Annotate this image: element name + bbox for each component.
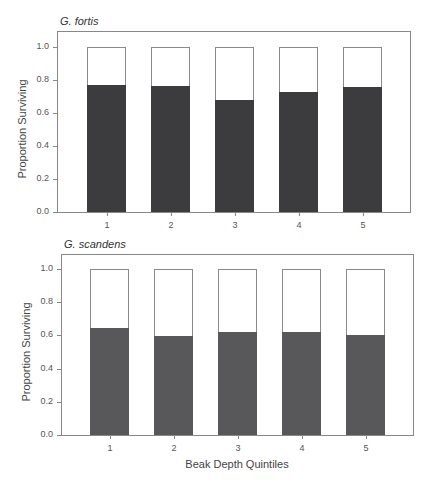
y-tick-label: 0.6 (29, 329, 53, 339)
bar-quintile-1 (90, 269, 129, 435)
bar-quintile-4 (282, 269, 321, 435)
bar-fill-surviving (218, 332, 257, 435)
bar-quintile-2 (154, 269, 193, 435)
y-axis-label: Proportion Surviving (16, 59, 28, 199)
x-tick (366, 435, 367, 439)
bar-quintile-5 (346, 269, 385, 435)
bar-quintile-1 (87, 47, 126, 212)
x-tick (235, 212, 236, 216)
bar-fill-surviving (343, 87, 382, 212)
x-tick-label: 5 (353, 220, 373, 230)
y-tick (53, 146, 57, 147)
panel-title: G. fortis (60, 15, 99, 27)
x-tick (110, 435, 111, 439)
y-tick (53, 179, 57, 180)
y-tick-label: 1.0 (25, 41, 49, 51)
x-tick-label: 3 (228, 443, 248, 453)
bar-quintile-4 (279, 47, 318, 212)
y-tick (57, 369, 61, 370)
y-tick-label: 1.0 (29, 263, 53, 273)
y-tick-label: 0.0 (25, 206, 49, 216)
bar-fill-surviving (215, 100, 254, 212)
x-tick-label: 2 (161, 220, 181, 230)
y-tick (57, 302, 61, 303)
bar-fill-surviving (90, 328, 129, 435)
x-tick-label: 4 (292, 443, 312, 453)
bar-fill-surviving (282, 332, 321, 435)
x-tick (174, 435, 175, 439)
x-tick-label: 2 (164, 443, 184, 453)
x-tick-label: 1 (100, 443, 120, 453)
y-tick (53, 113, 57, 114)
x-axis-label: Beak Depth Quintiles (137, 458, 337, 470)
y-tick-label: 0.6 (25, 107, 49, 117)
y-tick (57, 435, 61, 436)
y-tick (57, 269, 61, 270)
panel-title: G. scandens (64, 238, 126, 250)
y-tick-label: 0.2 (29, 396, 53, 406)
y-tick (57, 402, 61, 403)
x-tick (171, 212, 172, 216)
x-tick-label: 1 (97, 220, 117, 230)
bar-fill-surviving (279, 92, 318, 212)
x-tick-label: 4 (289, 220, 309, 230)
bar-fill-surviving (346, 335, 385, 435)
x-tick-label: 5 (356, 443, 376, 453)
y-tick-label: 0.2 (25, 173, 49, 183)
x-tick (302, 435, 303, 439)
bar-fill-surviving (154, 336, 193, 435)
y-tick-label: 0.4 (29, 363, 53, 373)
y-tick-label: 0.8 (29, 296, 53, 306)
x-tick-label: 3 (225, 220, 245, 230)
x-tick (238, 435, 239, 439)
y-tick-label: 0.8 (25, 74, 49, 84)
y-axis-label: Proportion Surviving (20, 282, 32, 422)
y-tick (53, 47, 57, 48)
y-tick-label: 0.4 (25, 140, 49, 150)
y-tick (53, 80, 57, 81)
y-tick (57, 335, 61, 336)
bar-quintile-3 (215, 47, 254, 212)
y-tick (53, 212, 57, 213)
x-tick (299, 212, 300, 216)
y-tick-label: 0.0 (29, 429, 53, 439)
x-tick (363, 212, 364, 216)
x-tick (107, 212, 108, 216)
bar-quintile-3 (218, 269, 257, 435)
bar-fill-surviving (87, 85, 126, 212)
bar-quintile-5 (343, 47, 382, 212)
bar-fill-surviving (151, 86, 190, 212)
bar-quintile-2 (151, 47, 190, 212)
